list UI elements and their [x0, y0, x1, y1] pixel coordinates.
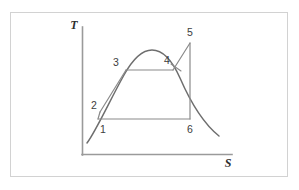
x-axis-label: S — [225, 156, 232, 170]
ts-diagram-canvas: T S 1 2 3 4 5 6 — [0, 0, 299, 190]
saturation-dome-curve — [87, 50, 219, 143]
cycle-path-group — [98, 43, 190, 119]
process-1-2-pump — [98, 112, 100, 119]
y-axis-label: T — [70, 18, 78, 32]
process-4-5-superheat — [173, 43, 190, 70]
state-label-1: 1 — [100, 123, 106, 135]
state-label-6: 6 — [187, 123, 193, 135]
saturation-dome-group — [87, 50, 219, 143]
figure-root: T S 1 2 3 4 5 6 — [0, 0, 299, 190]
process-2-3-heating — [100, 70, 126, 112]
state-label-5: 5 — [187, 26, 193, 38]
state-label-4: 4 — [164, 54, 170, 66]
state-label-3: 3 — [113, 56, 119, 68]
state-label-2: 2 — [91, 99, 97, 111]
axes-group: T S — [70, 18, 232, 170]
